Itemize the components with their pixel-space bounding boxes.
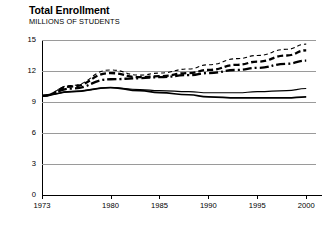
- chart-subtitle: MILLIONS OF STUDENTS: [29, 17, 120, 26]
- chart-card: Total Enrollment MILLIONS OF STUDENTS 03…: [0, 0, 330, 227]
- plot-area: [42, 40, 316, 195]
- page-title: Total Enrollment: [29, 4, 120, 16]
- y-axis-tick-label: 0: [10, 191, 36, 199]
- x-axis-tick-label: 1985: [139, 201, 179, 210]
- y-axis-tick-label: 12: [10, 67, 36, 75]
- title-block: Total Enrollment MILLIONS OF STUDENTS: [29, 4, 120, 26]
- x-axis-tick-label: 1990: [188, 201, 228, 210]
- x-axis-tick-label: 1980: [91, 201, 131, 210]
- series-line-enrollment-lower: [42, 88, 306, 98]
- series-line-projection-middle: [42, 50, 306, 95]
- x-axis-tick: [306, 195, 307, 199]
- series-layer: [42, 40, 316, 195]
- x-axis-tick-label: 1995: [237, 201, 277, 210]
- x-axis-tick: [208, 195, 209, 199]
- x-axis-tick: [159, 195, 160, 199]
- x-axis-tick-label: 2000: [286, 201, 326, 210]
- x-axis-tick: [42, 195, 43, 199]
- y-axis-tick-label: 6: [10, 129, 36, 137]
- x-axis-line: [42, 195, 322, 196]
- x-axis-tick: [111, 195, 112, 199]
- y-axis-tick-label: 15: [10, 36, 36, 44]
- y-axis-tick-label: 3: [10, 160, 36, 168]
- y-axis-tick-label: 9: [10, 98, 36, 106]
- x-axis-tick-label: 1973: [22, 201, 62, 210]
- x-axis-tick: [257, 195, 258, 199]
